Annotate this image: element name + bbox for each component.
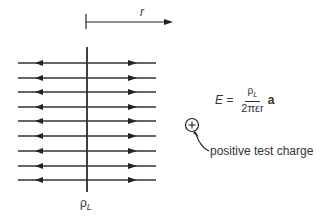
equation-numerator: ρL — [245, 85, 259, 102]
r-arrow — [86, 14, 173, 29]
equation-denominator: 2πεr — [241, 102, 263, 115]
equation-fraction: ρL 2πεr — [241, 85, 263, 115]
unit-vector: a — [268, 93, 275, 107]
r-label: r — [140, 5, 144, 19]
test-charge-caption: positive test charge — [210, 144, 313, 158]
field-equation: E = ρL 2πεr a — [215, 85, 274, 115]
line-charge-label: ρL — [80, 196, 92, 212]
equation-lhs: E = — [215, 93, 233, 107]
positive-test-charge-icon — [186, 119, 199, 132]
pointer-arrow-icon — [193, 131, 209, 151]
field-diagram — [0, 0, 330, 218]
